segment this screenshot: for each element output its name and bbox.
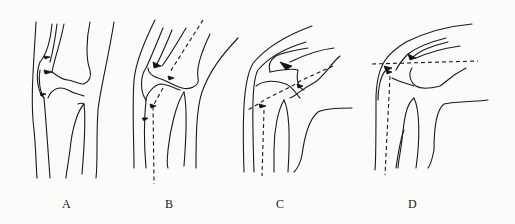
panel-b-drawing — [133, 20, 238, 184]
panel-c-label: C — [276, 197, 284, 211]
panel-b-label: B — [165, 197, 173, 211]
knee-diagram-art — [0, 0, 515, 224]
panel-d-drawing — [372, 24, 488, 175]
panel-c-drawing — [243, 26, 352, 176]
panel-a-drawing — [32, 22, 114, 178]
panel-d-label: D — [408, 197, 417, 211]
knee-flexion-figure: A B C D — [0, 0, 515, 224]
panel-a-label: A — [62, 197, 71, 211]
